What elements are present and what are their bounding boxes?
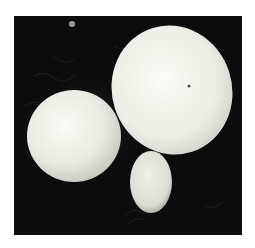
micrograph-image bbox=[14, 16, 242, 235]
micrograph-frame bbox=[14, 16, 242, 235]
debris-particle bbox=[69, 21, 75, 27]
left-cell bbox=[27, 90, 121, 182]
surface-spot bbox=[187, 84, 190, 87]
bud-cell bbox=[130, 151, 172, 213]
